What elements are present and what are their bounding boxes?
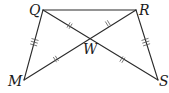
label-m: M [7,73,23,89]
tick-marks-wr [105,20,110,26]
label-r: R [138,2,150,18]
label-s: S [159,73,169,89]
label-q: Q [29,2,41,18]
tick-marks-rs [142,38,151,46]
geometry-diagram: Q R M S W [0,0,169,93]
diagonal-qs [43,10,158,80]
diagonal-rm [24,10,136,80]
tick-marks-qm [30,39,38,46]
label-w: W [83,41,99,57]
